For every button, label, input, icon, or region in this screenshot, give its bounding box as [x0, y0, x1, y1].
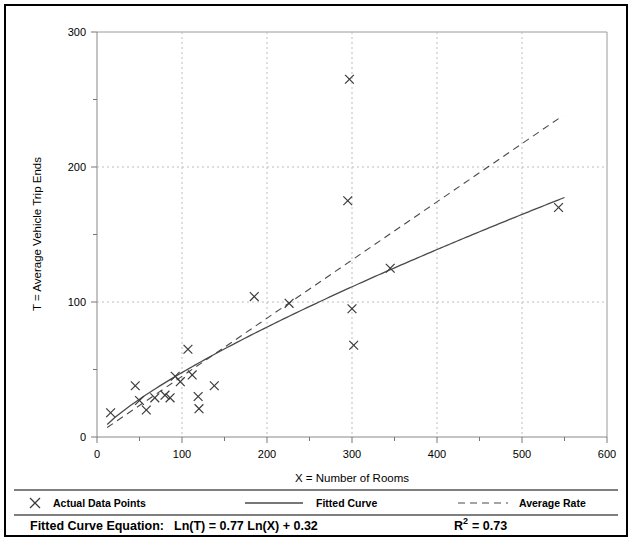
legend-label-average-rate: Average Rate: [519, 497, 586, 509]
data-point-marker: [195, 404, 204, 413]
y-tick-300: 300: [68, 26, 86, 38]
legend-item-actual-data-points: Actual Data Points: [30, 497, 146, 509]
x-tick-300: 300: [343, 448, 361, 460]
equation-value: Ln(T) = 0.77 Ln(X) + 0.32: [174, 519, 318, 533]
y-axis-tick-labels: 0 100 200 300: [68, 26, 86, 443]
y-tick-0: 0: [80, 431, 86, 443]
x-marker-icon: [30, 498, 40, 508]
y-tick-200: 200: [68, 161, 86, 173]
data-point-marker: [349, 341, 358, 350]
data-point-marker: [188, 371, 197, 380]
equation-label: Fitted Curve Equation:: [30, 519, 164, 533]
r-squared-base: R: [454, 519, 463, 533]
x-tick-0: 0: [94, 448, 100, 460]
data-point-marker: [554, 203, 563, 212]
x-tick-200: 200: [258, 448, 276, 460]
x-axis-tick-labels: 0 100 200 300 400 500 600: [94, 448, 616, 460]
y-tick-100: 100: [68, 296, 86, 308]
legend-label-actual-data-points: Actual Data Points: [53, 497, 146, 509]
legend: Actual Data Points Fitted Curve Average …: [30, 497, 586, 509]
r-squared-exponent: 2: [463, 516, 468, 526]
footer-r-squared: R 2 = 0.73: [454, 516, 507, 533]
footer-equation: Fitted Curve Equation: Ln(T) = 0.77 Ln(X…: [30, 519, 318, 533]
data-point-marker: [348, 304, 357, 313]
x-axis-title: X = Number of Rooms: [295, 472, 409, 484]
data-point-marker: [343, 196, 352, 205]
data-point-marker: [131, 381, 140, 390]
x-tick-400: 400: [428, 448, 446, 460]
data-point-marker: [345, 75, 354, 84]
x-tick-600: 600: [598, 448, 616, 460]
data-point-marker: [184, 345, 193, 354]
legend-label-fitted-curve: Fitted Curve: [316, 497, 377, 509]
data-point-marker: [250, 292, 259, 301]
legend-item-average-rate: Average Rate: [458, 497, 586, 509]
data-point-marker: [176, 377, 185, 386]
data-points-group: [106, 75, 563, 417]
data-point-marker: [285, 299, 294, 308]
x-gridlines: [182, 32, 522, 437]
data-point-marker: [194, 392, 203, 401]
r-squared-value: = 0.73: [472, 519, 507, 533]
trip-generation-chart: 0 100 200 300 0 100 200 300 4: [6, 6, 626, 535]
data-point-marker: [150, 393, 159, 402]
y-axis-ticks: [91, 32, 97, 437]
legend-item-fitted-curve: Fitted Curve: [245, 497, 377, 509]
x-axis-ticks: [97, 437, 607, 443]
x-tick-500: 500: [513, 448, 531, 460]
figure-frame: 0 100 200 300 0 100 200 300 4: [4, 4, 628, 537]
data-point-marker: [210, 381, 219, 390]
data-point-marker: [142, 406, 151, 415]
average-rate-line: [107, 116, 563, 428]
y-axis-title: T = Average Vehicle Trip Ends: [31, 157, 43, 311]
data-point-marker: [106, 408, 115, 417]
fitted-curve-line: [107, 197, 564, 424]
x-tick-100: 100: [173, 448, 191, 460]
